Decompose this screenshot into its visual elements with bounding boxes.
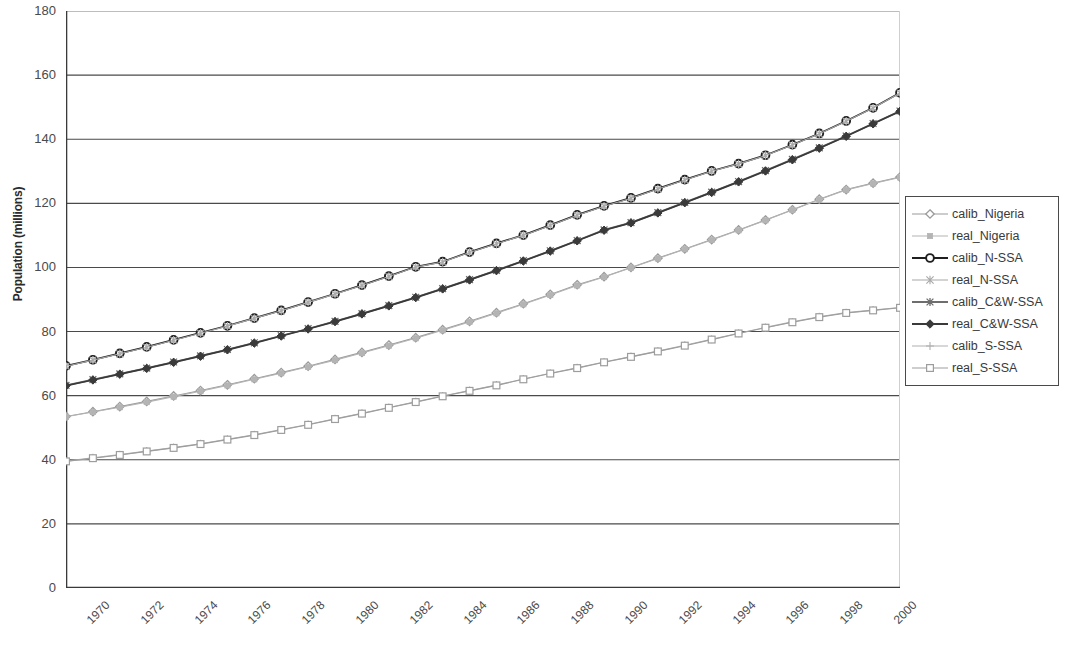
marker-square-small — [736, 228, 741, 233]
marker-square-open — [520, 376, 527, 383]
marker-square-small — [252, 377, 257, 382]
marker-square-small — [897, 175, 900, 180]
marker-square-open — [90, 455, 97, 462]
marker-square-open — [412, 399, 419, 406]
y-tick-label: 140 — [12, 131, 56, 146]
marker-square-small — [90, 409, 95, 414]
marker-square-open — [251, 432, 258, 439]
y-tick-label: 60 — [12, 388, 56, 403]
marker-square-small — [440, 328, 445, 333]
marker-square-small — [225, 383, 230, 388]
marker-diamond-open — [926, 210, 934, 218]
marker-square-open — [681, 342, 688, 349]
x-tick-label: 1984 — [460, 598, 489, 627]
marker-square-small — [548, 292, 553, 297]
y-tick-label: 40 — [12, 452, 56, 467]
legend-marker-circle-bold-icon — [910, 249, 950, 267]
legend-marker-diamond-open-icon — [910, 205, 950, 223]
series-line — [66, 308, 900, 462]
legend-item-calib-c-w-ssa[interactable]: calib_C&W-SSA — [910, 291, 1054, 313]
marker-square-small — [332, 357, 337, 362]
y-tick-label: 180 — [12, 3, 56, 18]
marker-square-small — [682, 247, 687, 252]
legend-label: real_Nigeria — [950, 229, 1019, 243]
marker-square-open — [116, 452, 123, 459]
marker-square-open — [305, 421, 312, 428]
marker-square-small — [763, 218, 768, 223]
marker-square-open — [224, 436, 231, 443]
legend-label: calib_N-SSA — [950, 251, 1023, 265]
series-real-n-ssa — [66, 89, 900, 371]
marker-square-small — [817, 197, 822, 202]
legend-item-real-s-ssa[interactable]: real_S-SSA — [910, 357, 1054, 379]
x-tick-label: 1982 — [407, 598, 436, 627]
marker-square-open — [927, 365, 934, 372]
marker-square-small — [628, 265, 633, 270]
x-tick-label: 1972 — [138, 598, 167, 627]
marker-square-open — [359, 410, 366, 417]
series-real-s-ssa — [66, 304, 900, 464]
x-tick-label: 1978 — [299, 598, 328, 627]
marker-square-open — [735, 330, 742, 337]
legend-item-real-c-w-ssa[interactable]: real_C&W-SSA — [910, 313, 1054, 335]
marker-square-open — [762, 324, 769, 331]
legend-marker-diamond-filled-icon — [910, 315, 950, 333]
marker-square-open — [439, 393, 446, 400]
x-tick-label: 1976 — [245, 598, 274, 627]
marker-square-small — [844, 187, 849, 192]
marker-square-small — [709, 237, 714, 242]
series-line — [66, 177, 900, 416]
x-tick-label: 1994 — [729, 598, 758, 627]
x-tick-label: 1996 — [783, 598, 812, 627]
marker-square-open — [897, 304, 900, 311]
marker-square-small — [386, 343, 391, 348]
marker-square-small — [66, 414, 69, 419]
legend-label: real_S-SSA — [950, 361, 1017, 375]
marker-square-small — [306, 364, 311, 369]
chart-legend: calib_Nigeriareal_Nigeriacalib_N-SSAreal… — [905, 196, 1059, 386]
marker-square-open — [870, 307, 877, 314]
marker-square-small — [601, 274, 606, 279]
series-calib-nigeria — [66, 173, 900, 421]
marker-plus — [926, 342, 934, 350]
legend-label: real_N-SSA — [950, 273, 1018, 287]
marker-square-small — [927, 233, 932, 238]
marker-square-small — [279, 371, 284, 376]
y-tick-label: 80 — [12, 324, 56, 339]
x-tick-label: 2000 — [891, 598, 920, 627]
y-tick-label: 20 — [12, 516, 56, 531]
marker-square-open — [843, 310, 850, 317]
x-tick-label: 1988 — [568, 598, 597, 627]
legend-label: calib_C&W-SSA — [950, 295, 1043, 309]
legend-marker-plus-icon — [910, 337, 950, 355]
y-tick-label: 120 — [12, 195, 56, 210]
x-tick-label: 1980 — [353, 598, 382, 627]
x-tick-label: 1992 — [676, 598, 705, 627]
marker-square-small — [467, 319, 472, 324]
legend-item-real-nigeria[interactable]: real_Nigeria — [910, 225, 1054, 247]
x-tick-label: 1998 — [837, 598, 866, 627]
marker-square-open — [654, 348, 661, 355]
marker-square-open — [574, 365, 581, 372]
legend-marker-square-open-icon — [910, 359, 950, 377]
marker-asterisk — [926, 298, 934, 306]
marker-square-open — [385, 404, 392, 411]
plot-svg — [66, 11, 900, 588]
legend-marker-square-small-icon — [910, 227, 950, 245]
marker-square-open — [708, 336, 715, 343]
marker-square-open — [816, 314, 823, 321]
legend-item-calib-nigeria[interactable]: calib_Nigeria — [910, 203, 1054, 225]
legend-marker-asterisk-icon — [910, 293, 950, 311]
marker-square-open — [493, 382, 500, 389]
series-line — [66, 308, 900, 462]
marker-square-open — [170, 445, 177, 452]
marker-square-small — [790, 207, 795, 212]
legend-item-calib-n-ssa[interactable]: calib_N-SSA — [910, 247, 1054, 269]
legend-item-real-n-ssa[interactable]: real_N-SSA — [910, 269, 1054, 291]
series-calib-s-ssa — [66, 304, 900, 466]
legend-item-calib-s-ssa[interactable]: calib_S-SSA — [910, 335, 1054, 357]
marker-square-small — [413, 336, 418, 341]
x-tick-label: 1986 — [514, 598, 543, 627]
marker-square-open — [332, 416, 339, 423]
plot-area — [66, 11, 900, 588]
